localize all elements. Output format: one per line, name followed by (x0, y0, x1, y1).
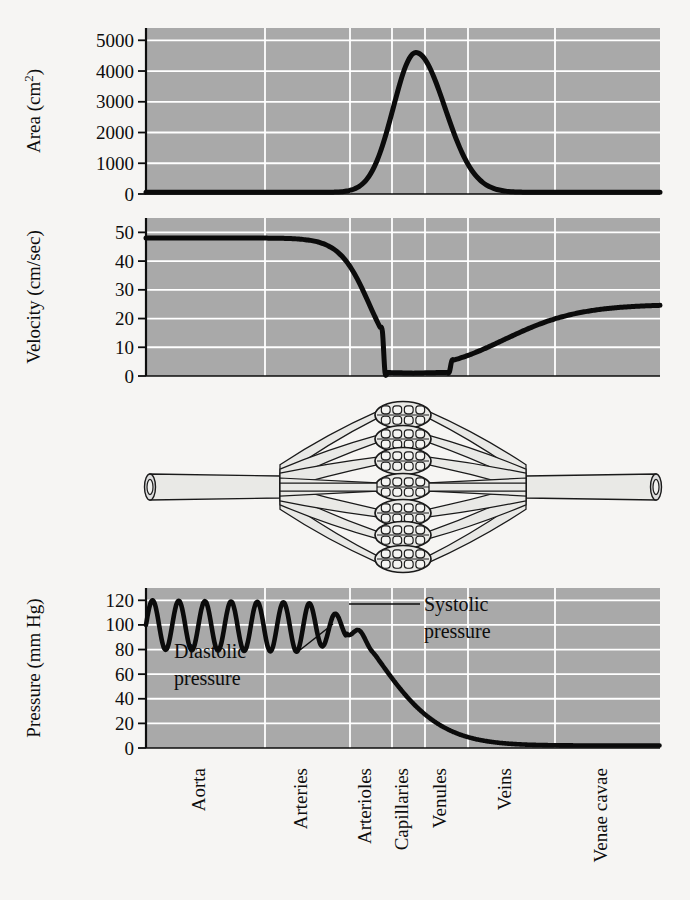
capillary-cell (393, 462, 402, 470)
capillary-cell (416, 550, 425, 558)
capillary-cell (416, 430, 425, 438)
tick-label: 2000 (96, 122, 134, 143)
tick-label: 30 (115, 279, 134, 300)
tick-label: 80 (115, 639, 134, 660)
tick-label: 40 (115, 688, 134, 709)
capillary-cell (393, 550, 402, 558)
category-label-arteries: Arteries (290, 768, 311, 829)
capillary-cell (381, 536, 390, 544)
capillary-cell (393, 560, 402, 568)
tick-label: 20 (115, 308, 134, 329)
capillary-cell (416, 504, 425, 512)
capillary-cell (381, 440, 390, 448)
area-plot-background (146, 28, 660, 194)
capillary-cell (404, 478, 413, 486)
diastolic-pressure-label-line1: Diastolic (174, 640, 246, 662)
tick-label: 10 (115, 337, 134, 358)
capillary-cell (381, 488, 390, 496)
capillary-cell (404, 462, 413, 470)
capillary-cell (416, 452, 425, 460)
capillary-cell (404, 406, 413, 414)
capillary-cell (416, 536, 425, 544)
category-label-venae-cavae: Venae cavae (590, 768, 611, 862)
capillary-cell (381, 514, 390, 522)
tick-label: 40 (115, 251, 134, 272)
velocity-plot-background (146, 218, 660, 376)
central-arteriole (280, 483, 377, 491)
capillary-cell (381, 478, 390, 486)
tick-label: 0 (125, 184, 135, 205)
capillary-cell (404, 430, 413, 438)
capillary-cell (416, 462, 425, 470)
capillary-cell (404, 526, 413, 534)
tick-label: 4000 (96, 61, 134, 82)
capillary-cell (381, 462, 390, 470)
capillary-cell (381, 452, 390, 460)
capillary-cell (393, 478, 402, 486)
capillary-cell (393, 536, 402, 544)
systolic-pressure-label-line1: Systolic (424, 593, 489, 616)
category-label-capillaries: Capillaries (391, 768, 412, 850)
capillary-cell (416, 526, 425, 534)
tick-label: 0 (125, 738, 135, 759)
capillary-cell (404, 504, 413, 512)
panel-pressure: 120100806040200 Pressure (mm Hg) Systoli… (23, 588, 660, 759)
capillary-cell (393, 504, 402, 512)
category-label-arterioles: Arterioles (354, 768, 375, 844)
capillary-cell (416, 488, 425, 496)
capillary-cell (404, 452, 413, 460)
capillary-cell (393, 406, 402, 414)
capillary-cell (393, 452, 402, 460)
cardiovascular-parameters-figure: 500040003000200010000 Area (cm2) 5040302… (0, 0, 690, 900)
pressure-axis-title: Pressure (mm Hg) (23, 598, 45, 737)
capillary-cell (393, 488, 402, 496)
tick-label: 120 (106, 590, 135, 611)
capillary-cell (381, 504, 390, 512)
capillary-cell (393, 526, 402, 534)
tick-label: 1000 (96, 153, 134, 174)
capillary-cell (381, 550, 390, 558)
capillary-cell (416, 514, 425, 522)
capillary-cell (381, 560, 390, 568)
capillary-cell (381, 416, 390, 424)
central-venule (429, 483, 526, 491)
capillary-cell (416, 416, 425, 424)
diastolic-pressure-label-line2: pressure (174, 667, 241, 690)
tick-label: 20 (115, 713, 134, 734)
category-label-aorta: Aorta (188, 767, 209, 811)
tick-label: 3000 (96, 91, 134, 112)
category-label-venules: Venules (429, 768, 450, 828)
velocity-axis-title: Velocity (cm/sec) (23, 230, 45, 363)
capillary-cell (404, 416, 413, 424)
tick-label: 5000 (96, 30, 134, 51)
aorta-trunk (150, 474, 280, 500)
venae-cavae-trunk (526, 474, 656, 500)
capillary-cell (381, 430, 390, 438)
capillary-cell (416, 440, 425, 448)
aorta-trunk-lumen-inner (147, 479, 153, 494)
venae-cavae-trunk-lumen-inner (653, 479, 659, 494)
tick-label: 60 (115, 664, 134, 685)
tick-label: 100 (106, 614, 135, 635)
capillary-cell (416, 560, 425, 568)
capillary-cell (416, 478, 425, 486)
capillary-cell (404, 488, 413, 496)
capillary-cell (381, 406, 390, 414)
capillary-cell (404, 560, 413, 568)
category-label-veins: Veins (494, 768, 515, 810)
tick-label: 50 (115, 222, 134, 243)
systolic-pressure-label-line2: pressure (424, 620, 491, 643)
capillary-cell (393, 416, 402, 424)
capillary-cell (404, 536, 413, 544)
capillary-cell (404, 550, 413, 558)
capillary-cell (416, 406, 425, 414)
tick-label: 0 (125, 366, 135, 387)
capillary-cell (393, 430, 402, 438)
capillary-cell (381, 526, 390, 534)
